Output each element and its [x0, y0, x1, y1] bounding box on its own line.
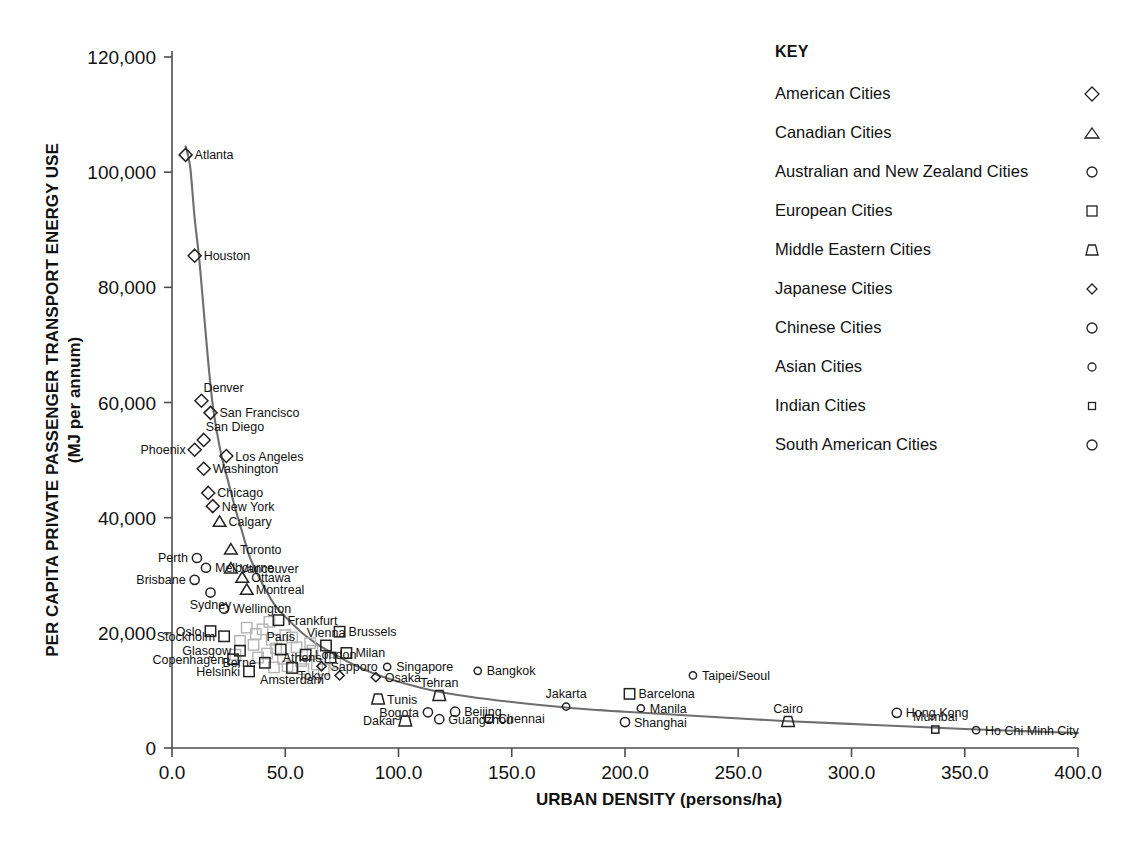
data-point-hong-kong: [892, 708, 901, 717]
data-point-bogota: [423, 708, 432, 717]
y-tick-label: 0: [145, 738, 156, 759]
legend-panel: KEY American CitiesCanadian CitiesAustra…: [775, 43, 1105, 464]
point-label: Manila: [650, 702, 687, 716]
data-point-new-york: [206, 500, 219, 513]
legend-item-australian[interactable]: Australian and New Zealand Cities: [775, 152, 1105, 191]
point-label: Barcelona: [639, 687, 695, 701]
legend-item-label: Canadian Cities: [775, 123, 891, 141]
x-tick-label: 200.0: [601, 762, 649, 783]
legend-item-label: Indian Cities: [775, 396, 866, 414]
data-point-guangzhou: [435, 715, 444, 724]
point-label: Athens: [283, 651, 322, 665]
legend-item-middle_eastern[interactable]: Middle Eastern Cities: [775, 230, 1105, 269]
point-label: Tokyo: [298, 669, 331, 683]
y-axis-subtitle: (MJ per annum): [65, 337, 84, 464]
x-tick-label: 350.0: [941, 762, 989, 783]
point-label: Denver: [203, 381, 243, 395]
x-tick-label: 0.0: [159, 762, 185, 783]
data-point-tunis: [372, 694, 385, 704]
data-point-unlabeled: [248, 640, 258, 650]
point-label: Toronto: [240, 543, 282, 557]
legend-item-label: Australian and New Zealand Cities: [775, 162, 1028, 180]
point-label: Bangkok: [487, 664, 536, 678]
legend-marker-small-circle-icon: [1079, 347, 1105, 386]
chart-root: 020,00040,00060,00080,000100,000120,0000…: [0, 0, 1137, 851]
legend-item-label: European Cities: [775, 201, 892, 219]
legend-rows: American CitiesCanadian CitiesAustralian…: [775, 74, 1105, 464]
data-point-san-diego: [197, 433, 210, 446]
legend-marker-circle-icon: [1079, 308, 1105, 347]
data-point-bangkok: [474, 667, 481, 674]
point-label: Houston: [204, 249, 251, 263]
legend-marker-diamond-icon: [1079, 74, 1105, 113]
legend-item-asian[interactable]: Asian Cities: [775, 347, 1105, 386]
point-label: Calgary: [229, 515, 273, 529]
point-label: Milan: [355, 646, 385, 660]
y-tick-label: 120,000: [87, 47, 156, 68]
data-point-toronto: [225, 544, 238, 554]
point-label: Shanghai: [634, 716, 687, 730]
x-tick-label: 100.0: [375, 762, 423, 783]
point-label: Tunis: [387, 693, 417, 707]
legend-item-south_american[interactable]: South American Cities: [775, 425, 1105, 464]
legend-marker-small-square-icon: [1079, 386, 1105, 425]
data-point-denver: [195, 394, 208, 407]
legend-marker-square-icon: [1079, 191, 1105, 230]
data-point-taipei-seoul: [689, 672, 696, 679]
legend-item-japanese[interactable]: Japanese Cities: [775, 269, 1105, 308]
x-tick-label: 400.0: [1054, 762, 1102, 783]
point-label: Paris: [266, 630, 294, 644]
x-tick-label: 150.0: [488, 762, 536, 783]
point-label: Mumbai: [913, 710, 957, 724]
legend-marker-circle-icon: [1079, 152, 1105, 191]
point-label: Phoenix: [140, 443, 186, 457]
y-axis-title: PER CAPITA PRIVATE PASSENGER TRANSPORT E…: [43, 143, 62, 657]
data-point-shanghai: [620, 717, 629, 726]
point-label: Taipei/Seoul: [702, 669, 770, 683]
point-label: Wellington: [233, 602, 291, 616]
point-label: San Diego: [206, 420, 264, 434]
legend-item-indian[interactable]: Indian Cities: [775, 386, 1105, 425]
point-label: Ho Chi Minh City: [985, 724, 1080, 738]
y-tick-label: 40,000: [98, 508, 156, 529]
x-tick-label: 250.0: [714, 762, 762, 783]
data-point-sydney: [206, 588, 215, 597]
legend-item-canadian[interactable]: Canadian Cities: [775, 113, 1105, 152]
point-label: Jakarta: [546, 687, 587, 701]
legend-marker-triangle-icon: [1079, 113, 1105, 152]
x-axis-title: URBAN DENSITY (persons/ha): [536, 790, 782, 809]
point-label: Stockholm: [157, 630, 215, 644]
point-label: San Francisco: [220, 406, 300, 420]
x-tick-label: 50.0: [267, 762, 304, 783]
data-point-unlabeled: [235, 636, 245, 646]
legend-item-american[interactable]: American Cities: [775, 74, 1105, 113]
data-point-chicago: [202, 486, 215, 499]
point-label: Brussels: [349, 625, 397, 639]
point-label: Chennai: [498, 712, 545, 726]
point-label: Osaka: [385, 671, 421, 685]
legend-item-chinese[interactable]: Chinese Cities: [775, 308, 1105, 347]
point-label: Montreal: [256, 583, 305, 597]
legend-item-label: Japanese Cities: [775, 279, 892, 297]
data-point-perth: [192, 553, 201, 562]
point-label: Brisbane: [136, 573, 185, 587]
data-point-stockholm: [219, 631, 229, 641]
legend-item-label: Middle Eastern Cities: [775, 240, 931, 258]
data-point-barcelona: [624, 689, 634, 699]
point-label: Washington: [213, 462, 279, 476]
legend-item-european[interactable]: European Cities: [775, 191, 1105, 230]
legend-item-label: Chinese Cities: [775, 318, 881, 336]
data-point-montreal: [240, 584, 253, 594]
y-tick-label: 60,000: [98, 393, 156, 414]
legend-title: KEY: [775, 43, 1105, 61]
legend-marker-trapezoid-icon: [1079, 230, 1105, 269]
legend-item-label: Asian Cities: [775, 357, 862, 375]
data-point-phoenix: [188, 443, 201, 456]
legend-marker-small-diamond-icon: [1079, 269, 1105, 308]
data-point-washington: [197, 462, 210, 475]
point-label: Cairo: [773, 702, 803, 716]
point-label: Helsinki: [196, 665, 240, 679]
y-tick-label: 80,000: [98, 277, 156, 298]
point-label: Tehran: [420, 676, 458, 690]
point-label: Vienna: [307, 626, 346, 640]
